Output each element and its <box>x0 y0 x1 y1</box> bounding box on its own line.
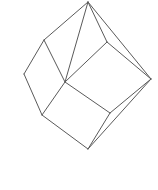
wireframe-cube-figure <box>0 0 158 190</box>
cube-svg <box>0 0 158 190</box>
edge-top-upperleft <box>44 2 88 40</box>
edge-top-centernear <box>65 2 88 82</box>
edge-lowerright-bottom <box>88 113 110 149</box>
edge-top-right <box>88 2 151 79</box>
edge-lowerleft-bottom <box>42 115 88 149</box>
edge-upperright-centernear <box>65 42 107 82</box>
edge-right-lowerright <box>110 79 151 113</box>
edge-upperright-right <box>107 42 151 79</box>
edge-upperleft-centernear <box>44 40 65 82</box>
edge-right-bottom <box>88 79 151 149</box>
cube-edge-group <box>24 2 151 149</box>
edge-left-lowerleft <box>24 74 42 115</box>
edge-upperleft-left <box>24 40 44 74</box>
edge-centernear-lowerright <box>65 82 110 113</box>
edge-centernear-lowerleft <box>42 82 65 115</box>
